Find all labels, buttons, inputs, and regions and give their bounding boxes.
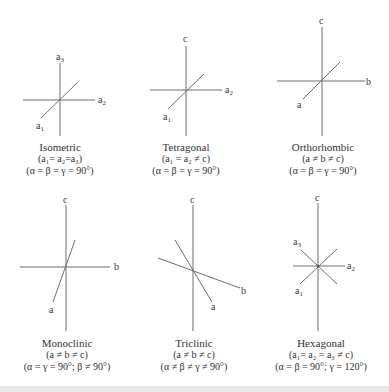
axis-relation: (a ≠ b ≠ c): [129, 349, 259, 361]
system-name: Tetragonal: [121, 141, 251, 153]
system-name: Hexagonal: [256, 337, 386, 349]
orthorhombic-label-a: a: [297, 99, 302, 110]
caption-triclinic: Triclinic (a ≠ b ≠ c) (α ≠ β ≠ γ ≠ 90°): [129, 337, 259, 373]
orthorhombic-label-b: b: [366, 76, 371, 87]
orthorhombic-label-c: c: [319, 15, 324, 26]
caption-isometric: Isometric (a₁= a₂=a₃) (α = β = γ = 90°): [0, 141, 125, 177]
axis-relation: (a₁ = a₂ ≠ c): [121, 153, 251, 165]
monoclinic-label-c: c: [63, 194, 68, 205]
tetragonal-label-c: c: [183, 33, 188, 44]
isometric-label-a1: a1: [36, 120, 44, 133]
angle-relation: (α = β = γ = 90°): [258, 165, 388, 177]
hexagonal-label-c: c: [315, 192, 320, 203]
triclinic-axes: c b a: [158, 194, 246, 331]
hexagonal-axes: c a3 a2 a1: [293, 192, 355, 331]
tetragonal-label-a1: a1: [163, 111, 171, 124]
axis-relation: (a₁= a₂=a₃): [0, 153, 125, 165]
system-name: Triclinic: [129, 337, 259, 349]
isometric-axes: a3 a2 a1: [23, 51, 106, 136]
monoclinic-label-b: b: [114, 261, 119, 272]
tetragonal-label-a2: a2: [225, 84, 233, 97]
bottom-bar: [0, 386, 389, 392]
hexagonal-label-a2: a2: [347, 260, 355, 273]
triclinic-label-c: c: [190, 194, 195, 205]
monoclinic-label-a: a: [49, 304, 54, 315]
angle-relation: (α = β = γ = 90°): [121, 165, 251, 177]
monoclinic-axes: c b a: [20, 194, 119, 331]
triclinic-label-b: b: [241, 285, 246, 296]
isometric-label-a3: a3: [56, 51, 64, 64]
angle-relation: (α ≠ β ≠ γ ≠ 90°): [129, 361, 259, 373]
caption-hexagonal: Hexagonal (a₁= a₂ = a₃ ≠ c) (α = β = 90°…: [256, 337, 386, 373]
system-name: Monoclinic: [2, 337, 132, 349]
axis-relation: (a ≠ b ≠ c): [258, 153, 388, 165]
caption-monoclinic: Monoclinic (a ≠ b ≠ c) (α = γ = 90°; β ≠…: [2, 337, 132, 373]
caption-tetragonal: Tetragonal (a₁ = a₂ ≠ c) (α = β = γ = 90…: [121, 141, 251, 177]
hexagonal-label-a3: a3: [293, 236, 301, 249]
angle-relation: (α = β = γ = 90°): [0, 165, 125, 177]
angle-relation: (α = β = 90°; γ = 120°): [256, 361, 386, 373]
axis-relation: (a ≠ b ≠ c): [2, 349, 132, 361]
caption-orthorhombic: Orthorhombic (a ≠ b ≠ c) (α = β = γ = 90…: [258, 141, 388, 177]
system-name: Isometric: [0, 141, 125, 153]
isometric-label-a2: a2: [98, 94, 106, 107]
tetragonal-axes: c a2 a1: [150, 33, 233, 136]
triclinic-label-a: a: [211, 301, 216, 312]
axis-relation: (a₁= a₂ = a₃ ≠ c): [256, 349, 386, 361]
hexagonal-label-a1: a1: [295, 285, 303, 298]
crystal-systems-diagram: a3 a2 a1 c a2 a1 c b a c b a c b a: [0, 0, 389, 392]
angle-relation: (α = γ = 90°; β ≠ 90°): [2, 361, 132, 373]
system-name: Orthorhombic: [258, 141, 388, 153]
orthorhombic-axes: c b a: [277, 15, 371, 136]
